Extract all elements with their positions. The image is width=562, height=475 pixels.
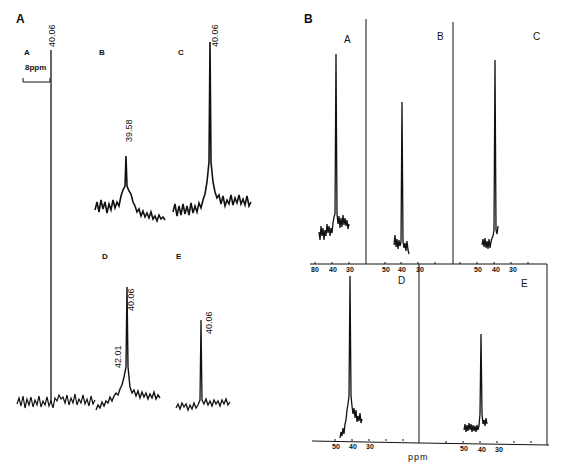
panel-b-spectra [0,0,562,475]
